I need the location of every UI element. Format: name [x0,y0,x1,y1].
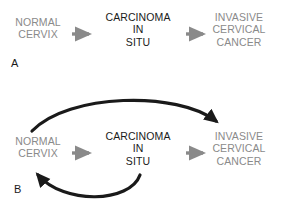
node-invasive-cervical-cancer: INVASIVE CERVICAL CANCER [200,11,278,48]
figure-canvas: NORMAL CERVIX CARCINOMA IN SITU INVASIVE… [0,0,283,209]
node-normal-cervix: NORMAL CERVIX [6,135,70,160]
arrow-normal-to-invasive-bypass [32,100,216,131]
panel-letter-a: A [11,57,18,69]
node-invasive-cervical-cancer: INVASIVE CERVICAL CANCER [200,130,278,167]
node-normal-cervix: NORMAL CERVIX [6,16,70,41]
arrow-cis-to-normal-regression [38,175,140,197]
node-carcinoma-in-situ: CARCINOMA IN SITU [92,130,184,167]
panel-letter-b: B [14,183,21,195]
panel-b: NORMAL CERVIX CARCINOMA IN SITU INVASIVE… [0,95,283,209]
node-carcinoma-in-situ: CARCINOMA IN SITU [92,11,184,48]
panel-a: NORMAL CERVIX CARCINOMA IN SITU INVASIVE… [0,0,283,95]
